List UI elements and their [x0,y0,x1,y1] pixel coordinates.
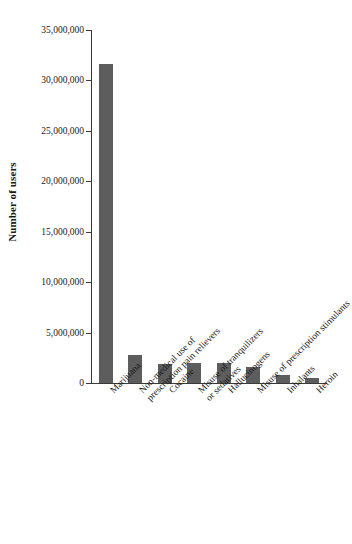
x-tick-label-0: Marijuana [108,360,143,395]
x-tick-label-7: Heroin [314,369,340,395]
